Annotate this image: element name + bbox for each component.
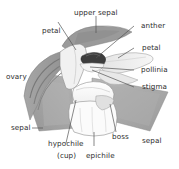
label-petal-left: petal — [42, 27, 61, 35]
label-petal-right: petal — [142, 44, 161, 52]
label-anther: anther — [141, 22, 165, 30]
label-hypochile-sub: (cup) — [57, 152, 76, 160]
label-stigma: stigma — [142, 83, 167, 91]
label-sepal-left: sepal — [11, 124, 31, 132]
label-sepal-right: sepal — [142, 137, 162, 145]
label-ovary: ovary — [6, 73, 27, 81]
orchid-anatomy-diagram: upper sepal petal anther petal pollinia … — [0, 0, 179, 169]
label-epichile: epichile — [86, 152, 115, 160]
label-boss: boss — [112, 133, 129, 141]
label-upper-sepal: upper sepal — [74, 9, 118, 17]
label-pollinia: pollinia — [141, 66, 168, 74]
label-hypochile: hypochile — [48, 140, 84, 148]
